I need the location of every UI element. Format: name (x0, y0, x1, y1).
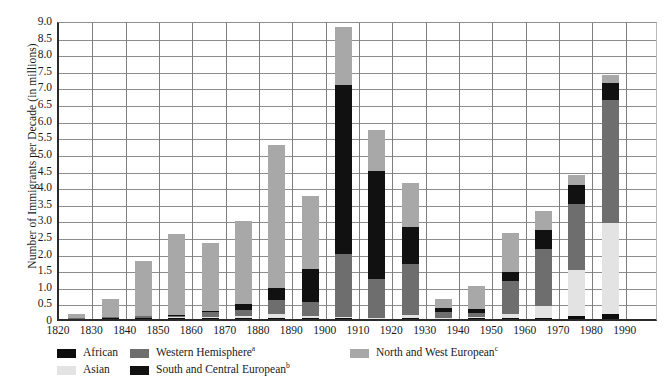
y-tick-label: 4.5 (8, 166, 52, 178)
bar-segment (168, 315, 185, 317)
y-tick-label: 8.0 (8, 49, 52, 61)
bar (602, 75, 619, 319)
bar-segment (335, 27, 352, 85)
bar-segment (168, 318, 185, 319)
bar-segment (235, 304, 252, 311)
bar-segment (368, 171, 385, 279)
bar (468, 286, 485, 319)
bar-segment (502, 272, 519, 281)
bar (235, 221, 252, 319)
bar-segment (102, 299, 119, 317)
y-tick-label: 4.0 (8, 182, 52, 194)
bar-segment (202, 311, 219, 313)
bar-segment (368, 279, 385, 318)
bar-segment (68, 318, 85, 319)
bar-segment (268, 145, 285, 289)
bar-segment (302, 196, 319, 269)
legend-label: North and West Europeanc (376, 347, 498, 359)
y-tick-label: 8.5 (8, 33, 52, 45)
bar-segment (435, 318, 452, 319)
bar (435, 299, 452, 319)
bar-segment (335, 317, 352, 318)
bar-segment (568, 204, 585, 270)
bar-segment (335, 318, 352, 319)
bar-segment (402, 315, 419, 319)
bar-segment (335, 85, 352, 254)
y-tick-label: 1.5 (8, 265, 52, 277)
legend-item: African (57, 346, 118, 360)
bar-segment (568, 316, 585, 319)
bar-segment (235, 310, 252, 316)
bar (368, 130, 385, 319)
y-tick-label: 0.5 (8, 299, 52, 311)
bar (568, 174, 585, 319)
y-tick-label: 2.0 (8, 249, 52, 261)
bar (402, 183, 419, 319)
bar-segment (268, 288, 285, 300)
legend-label: Western Hemispherea (156, 347, 255, 359)
bar-segment (602, 314, 619, 319)
bar-segment (68, 314, 85, 318)
legend-swatch (57, 349, 76, 358)
legend-column-3: North and West Europeanc (350, 346, 498, 363)
plot-area (57, 22, 657, 321)
y-tick-label: 5.0 (8, 149, 52, 161)
y-tick-label: 6.0 (8, 116, 52, 128)
bar-segment (568, 270, 585, 317)
bar-segment (302, 269, 319, 302)
bar-segment (468, 313, 485, 317)
legend-swatch (57, 366, 76, 375)
bar (135, 261, 152, 319)
legend-item: North and West Europeanc (350, 346, 498, 360)
bar-segment (402, 264, 419, 314)
immigration-bar-chart: Number of Immigrants per Decade (in mill… (0, 0, 663, 386)
bar-segment (402, 318, 419, 319)
bar-segment (368, 318, 385, 319)
legend-footnote-marker: b (286, 361, 290, 370)
bar-segment (435, 318, 452, 319)
bar-segment (302, 302, 319, 316)
bar-segment (302, 318, 319, 319)
legend-label: Asian (83, 364, 110, 376)
y-tick-label: 2.5 (8, 232, 52, 244)
bar-segment (368, 130, 385, 171)
bar-segment (168, 317, 185, 318)
bar (502, 233, 519, 319)
legend-item: South and Central Europeanb (130, 363, 290, 377)
bar (202, 243, 219, 319)
bar-segment (468, 318, 485, 319)
x-tick-label: 1990 (602, 325, 648, 337)
bar-segment (435, 308, 452, 313)
legend-column-1: AfricanAsian (57, 346, 118, 380)
bar-segment (168, 315, 185, 316)
bar-segment (535, 318, 552, 319)
y-tick-label: 9.0 (8, 16, 52, 28)
bar-segment (502, 281, 519, 314)
bar-segment (535, 230, 552, 248)
bar-segment (435, 299, 452, 308)
bar-segment (568, 185, 585, 204)
y-tick-label: 7.0 (8, 83, 52, 95)
legend-footnote-marker: a (252, 344, 255, 353)
bars-layer (59, 23, 656, 319)
bar-segment (468, 286, 485, 310)
bar-segment (268, 318, 285, 319)
bar-segment (202, 317, 219, 319)
bar-segment (135, 261, 152, 316)
bar-segment (102, 317, 119, 319)
chart-legend: AfricanAsian Western HemisphereaSouth an… (0, 344, 663, 386)
bar-segment (168, 234, 185, 314)
legend-footnote-marker: c (495, 344, 498, 353)
bar-segment (135, 316, 152, 319)
bar (335, 27, 352, 319)
bar-segment (202, 318, 219, 319)
bar-segment (502, 314, 519, 318)
bar-segment (535, 211, 552, 230)
bar (168, 234, 185, 319)
bar-segment (602, 223, 619, 315)
y-tick-label: 3.5 (8, 199, 52, 211)
y-tick-label: 1.0 (8, 282, 52, 294)
legend-item: Asian (57, 363, 118, 377)
legend-swatch (130, 366, 149, 375)
bar-segment (468, 317, 485, 318)
